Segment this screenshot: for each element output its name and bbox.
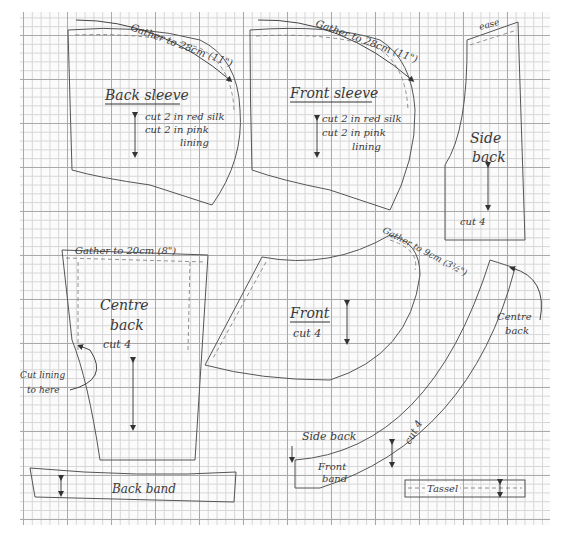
front-sleeve-piece: Gather to 28cm (11") Front sleeve cut 2 … bbox=[250, 18, 419, 210]
side-back-piece: ease Side back cut 4 bbox=[445, 17, 525, 240]
back-band-piece: Back band bbox=[30, 468, 236, 502]
front-gather-note: Gather to 9cm (3½") bbox=[381, 225, 469, 278]
front-band-title-line1: Front bbox=[317, 461, 347, 472]
front-sleeve-cut-line2: cut 2 in pink bbox=[322, 127, 386, 138]
front-sleeve-cut-line1: cut 2 in red silk bbox=[322, 113, 401, 124]
centre-back-gather-note: Gather to 20cm (8") bbox=[75, 245, 176, 256]
centre-back-label-line2: back bbox=[505, 325, 529, 336]
cut-lining-note-line1: Cut lining bbox=[20, 370, 65, 380]
cut-lining-note-line2: to here bbox=[27, 385, 60, 395]
centre-back-cut-note: cut 4 bbox=[103, 338, 131, 351]
front-sleeve-cut-line3: lining bbox=[352, 141, 381, 152]
front-sleeve-gather-note: Gather to 28cm (11") bbox=[314, 18, 419, 65]
back-band-title: Back band bbox=[111, 482, 176, 496]
front-band-title-line2: band bbox=[322, 473, 347, 484]
back-sleeve-cut-line3: lining bbox=[180, 137, 209, 148]
centre-back-title-line2: back bbox=[110, 317, 144, 333]
centre-back-piece: Gather to 20cm (8") Centre back cut 4 Cu… bbox=[20, 245, 208, 460]
front-sleeve-title: Front sleeve bbox=[289, 85, 378, 101]
back-sleeve-cut-line2: cut 2 in pink bbox=[145, 124, 209, 135]
centre-back-label-line1: Centre bbox=[497, 311, 532, 322]
front-band-side-back-label: Side back bbox=[302, 430, 357, 443]
back-sleeve-title: Back sleeve bbox=[104, 87, 189, 103]
side-back-title-line1: Side bbox=[470, 130, 501, 146]
front-cut-note: cut 4 bbox=[293, 327, 321, 340]
tassel-title: Tassel bbox=[427, 483, 458, 494]
tassel-piece: Tassel bbox=[405, 480, 525, 497]
side-back-cut-note: cut 4 bbox=[460, 216, 486, 227]
back-sleeve-piece: Gather to 28cm (11") Back sleeve cut 2 i… bbox=[68, 20, 240, 205]
back-sleeve-gather-note: Gather to 28cm (11") bbox=[129, 22, 234, 69]
pattern-drawing: Gather to 28cm (11") Back sleeve cut 2 i… bbox=[0, 0, 566, 541]
front-title: Front bbox=[289, 305, 330, 321]
centre-back-title-line1: Centre bbox=[100, 297, 149, 313]
back-sleeve-cut-line1: cut 2 in red silk bbox=[145, 111, 224, 122]
side-back-title-line2: back bbox=[472, 149, 506, 165]
front-piece: Gather to 9cm (3½") Front cut 4 bbox=[205, 225, 469, 380]
